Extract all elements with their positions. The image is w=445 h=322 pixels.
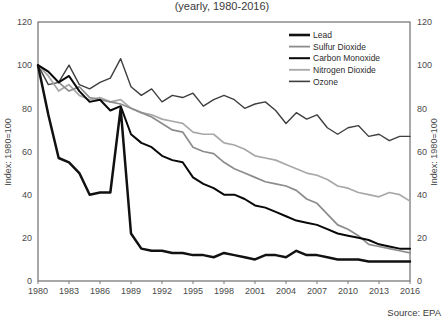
x-tick-label-1989: 1989 <box>121 286 141 296</box>
y-tick-label-left-20: 20 <box>22 233 32 243</box>
legend-label-sulfur-dioxide: Sulfur Dioxide <box>313 42 366 52</box>
y-tick-label-right-80: 80 <box>417 104 427 114</box>
x-tick-label-1986: 1986 <box>90 286 110 296</box>
legend-label-ozone: Ozone <box>313 77 338 87</box>
legend-label-carbon-monoxide: Carbon Monoxide <box>313 53 380 63</box>
source-label: Source: EPA <box>387 307 441 318</box>
legend-label-nitrogen-dioxide: Nitrogen Dioxide <box>313 65 376 75</box>
chart-subtitle: (yearly, 1980-2016) <box>175 0 270 12</box>
x-tick-label-1998: 1998 <box>214 286 234 296</box>
y-tick-label-right-120: 120 <box>417 17 432 27</box>
y-tick-label-left-120: 120 <box>17 17 32 27</box>
y-tick-label-left-40: 40 <box>22 190 32 200</box>
chart-svg-canvas: (yearly, 1980-2016) 020406080100120 0204… <box>0 0 445 322</box>
y-tick-label-left-0: 0 <box>27 276 32 286</box>
y-axis-right-title: Index: 1980=100 <box>429 118 439 185</box>
x-tick-label-2013: 2013 <box>369 286 389 296</box>
y-tick-label-left-80: 80 <box>22 104 32 114</box>
x-tick-label-2001: 2001 <box>245 286 265 296</box>
y-tick-label-left-60: 60 <box>22 147 32 157</box>
x-tick-label-1995: 1995 <box>183 286 203 296</box>
legend-label-lead: Lead <box>313 30 332 40</box>
x-tick-label-1992: 1992 <box>152 286 172 296</box>
x-tick-label-2016: 2016 <box>400 286 420 296</box>
y-tick-label-right-40: 40 <box>417 190 427 200</box>
y-tick-label-left-100: 100 <box>17 60 32 70</box>
air-quality-trends-chart: (yearly, 1980-2016) 020406080100120 0204… <box>0 0 445 322</box>
x-tick-label-1983: 1983 <box>59 286 79 296</box>
x-tick-label-1980: 1980 <box>28 286 48 296</box>
x-tick-label-2007: 2007 <box>307 286 327 296</box>
y-tick-label-right-0: 0 <box>417 276 422 286</box>
y-axis-left-title: Index: 1980=100 <box>3 118 13 185</box>
x-tick-label-2004: 2004 <box>276 286 296 296</box>
y-tick-label-right-60: 60 <box>417 147 427 157</box>
x-tick-label-2010: 2010 <box>338 286 358 296</box>
y-tick-label-right-100: 100 <box>417 60 432 70</box>
y-tick-label-right-20: 20 <box>417 233 427 243</box>
